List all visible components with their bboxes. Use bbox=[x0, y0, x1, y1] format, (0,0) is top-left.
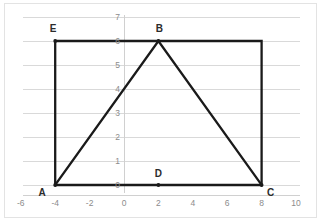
vertex-label-c: C bbox=[267, 187, 274, 198]
y-tick-label-4: 4 bbox=[115, 84, 120, 94]
vertex-dot-a bbox=[53, 183, 57, 187]
vertex-dot-d bbox=[157, 183, 161, 187]
gridlines-group bbox=[23, 18, 300, 186]
x-tick-label--4: -4 bbox=[51, 198, 59, 208]
plot-canvas: -6-4-20246810 01234567 ABCDE bbox=[0, 0, 321, 222]
y-tick-label-2: 2 bbox=[115, 132, 120, 142]
vertex-label-a: A bbox=[39, 187, 46, 198]
x-tick-label-8: 8 bbox=[259, 198, 264, 208]
vertex-label-e: E bbox=[50, 23, 57, 34]
vertex-dot-e bbox=[53, 39, 57, 43]
y-tick-label-0: 0 bbox=[115, 180, 120, 190]
x-axis-tick-labels: -6-4-20246810 bbox=[17, 198, 301, 208]
vertex-dot-c bbox=[260, 183, 264, 187]
y-tick-label-5: 5 bbox=[115, 60, 120, 70]
vertex-dot-b bbox=[157, 39, 161, 43]
vertex-label-d: D bbox=[155, 168, 162, 179]
x-tick-label-10: 10 bbox=[291, 198, 301, 208]
x-tick-label--2: -2 bbox=[86, 198, 94, 208]
y-tick-label-3: 3 bbox=[115, 108, 120, 118]
x-tick-label--6: -6 bbox=[17, 198, 25, 208]
x-tick-label-4: 4 bbox=[190, 198, 195, 208]
x-tick-label-2: 2 bbox=[156, 198, 161, 208]
vertex-label-b: B bbox=[156, 23, 163, 34]
coordinate-geometry-figure: -6-4-20246810 01234567 ABCDE bbox=[0, 0, 321, 222]
x-tick-label-6: 6 bbox=[225, 198, 230, 208]
y-tick-label-6: 6 bbox=[115, 36, 120, 46]
y-tick-label-1: 1 bbox=[115, 156, 120, 166]
x-tick-label-0: 0 bbox=[122, 198, 127, 208]
y-tick-label-7: 7 bbox=[115, 12, 120, 22]
vertex-labels-group: ABCDE bbox=[39, 23, 275, 198]
